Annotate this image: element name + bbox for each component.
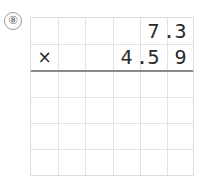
grid-row-line — [31, 97, 193, 98]
answer-rule-line — [31, 70, 193, 72]
multiplier-digit: 9 — [167, 44, 194, 70]
multiplicand-digit: 3 — [167, 18, 194, 44]
grid-row-line — [31, 123, 193, 124]
multiply-operator: × — [31, 44, 58, 70]
multiplication-grid: 7 . 3 × 4 . 5 9 — [30, 17, 194, 176]
multiplier-digit: 5 — [140, 44, 167, 70]
grid-row-line — [31, 149, 193, 150]
problem-number-label: ⑧ — [4, 12, 22, 30]
